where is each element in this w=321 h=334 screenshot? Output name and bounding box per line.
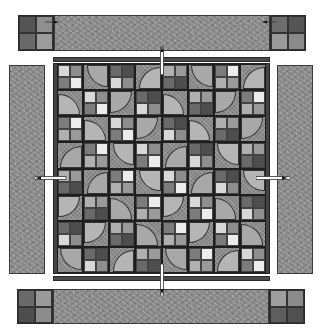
patch xyxy=(96,155,108,167)
patch xyxy=(70,222,82,234)
patch xyxy=(18,290,35,307)
patch xyxy=(122,129,134,141)
patch xyxy=(227,117,239,129)
patch xyxy=(136,260,148,272)
quarter-circle-arc xyxy=(163,94,185,116)
patch xyxy=(84,103,96,115)
patch xyxy=(148,103,160,115)
patch xyxy=(215,234,227,246)
direction-arrow-right-icon xyxy=(45,9,59,12)
patch xyxy=(163,234,175,246)
patch xyxy=(70,65,82,77)
quarter-circle-block xyxy=(214,247,240,273)
four-patch-block xyxy=(135,90,161,116)
patch xyxy=(201,155,213,167)
quarter-circle-block xyxy=(83,169,109,195)
patch xyxy=(241,208,253,220)
quarter-circle-arc xyxy=(217,250,239,272)
arrow-left-right-icon xyxy=(33,167,67,175)
patch xyxy=(58,65,70,77)
quarter-circle-block xyxy=(57,142,83,168)
patch xyxy=(215,117,227,129)
patch xyxy=(110,170,122,182)
patch xyxy=(122,77,134,89)
quarter-circle-block xyxy=(83,64,109,90)
patch xyxy=(215,182,227,194)
patch xyxy=(175,234,187,246)
patch xyxy=(122,65,134,77)
four-patch-block xyxy=(240,142,266,168)
bottom-left-corner-block xyxy=(17,289,53,324)
patch xyxy=(253,248,265,260)
quarter-circle-block xyxy=(214,142,240,168)
patch xyxy=(148,155,160,167)
patch xyxy=(189,260,201,272)
patch xyxy=(189,103,201,115)
four-patch-block xyxy=(109,221,135,247)
quarter-circle-block xyxy=(83,116,109,142)
patch xyxy=(36,16,53,33)
four-patch-block xyxy=(214,221,240,247)
patch xyxy=(136,143,148,155)
patch xyxy=(122,234,134,246)
bottom-right-corner-block xyxy=(269,289,305,324)
patch xyxy=(163,222,175,234)
patch xyxy=(201,260,213,272)
patch xyxy=(136,103,148,115)
patch xyxy=(58,129,70,141)
patch xyxy=(287,290,304,307)
patch xyxy=(227,77,239,89)
quarter-circle-arc xyxy=(136,117,158,139)
patch xyxy=(175,170,187,182)
patch xyxy=(227,182,239,194)
patch xyxy=(175,129,187,141)
patch xyxy=(148,143,160,155)
patch xyxy=(110,234,122,246)
patch xyxy=(136,208,148,220)
quarter-circle-block xyxy=(57,90,83,116)
quarter-circle-block xyxy=(109,195,135,221)
patch xyxy=(70,182,82,194)
patch xyxy=(110,65,122,77)
patch xyxy=(35,307,52,324)
patch xyxy=(84,91,96,103)
patch xyxy=(201,248,213,260)
patch xyxy=(58,234,70,246)
quarter-circle-arc xyxy=(113,143,135,165)
four-patch-block xyxy=(162,116,188,142)
patch xyxy=(175,222,187,234)
patch xyxy=(122,117,134,129)
patch xyxy=(96,196,108,208)
four-patch-block xyxy=(188,142,214,168)
patch xyxy=(253,208,265,220)
patch xyxy=(163,170,175,182)
patch xyxy=(70,77,82,89)
quarter-circle-block xyxy=(109,90,135,116)
patch xyxy=(227,222,239,234)
quarter-circle-block xyxy=(240,116,266,142)
patch xyxy=(136,196,148,208)
quarter-circle-arc xyxy=(165,248,187,270)
quarter-circle-block xyxy=(57,247,83,273)
quarter-circle-arc xyxy=(241,117,263,139)
patch xyxy=(189,248,201,260)
center-quilt xyxy=(53,63,270,274)
patch xyxy=(96,91,108,103)
patch xyxy=(271,16,288,33)
patch xyxy=(270,307,287,324)
patch xyxy=(287,307,304,324)
patch xyxy=(189,208,201,220)
patch xyxy=(241,103,253,115)
patch xyxy=(175,77,187,89)
patch xyxy=(201,208,213,220)
quarter-circle-arc xyxy=(163,196,185,218)
four-patch-block xyxy=(83,90,109,116)
direction-arrow-left-icon xyxy=(262,9,276,12)
four-patch-block xyxy=(57,64,83,90)
patch xyxy=(241,260,253,272)
patch xyxy=(136,248,148,260)
patch xyxy=(253,155,265,167)
arrow-bottom-up-icon xyxy=(158,264,166,298)
quarter-circle-arc xyxy=(60,146,82,168)
quarter-circle-arc xyxy=(60,248,82,270)
